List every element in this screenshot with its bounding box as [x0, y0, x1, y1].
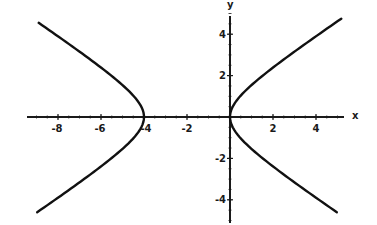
x-tick-label: 2: [270, 123, 277, 134]
x-tick-label: -2: [181, 123, 192, 134]
y-axis-label: y: [227, 0, 234, 10]
x-tick-label: -8: [51, 123, 62, 134]
y-tick-label: -2: [215, 153, 226, 164]
x-axis-label: x: [352, 110, 359, 121]
hyperbola-plot: -8 -6 -4 -2 2 4 4 2 -2 -4 x y: [0, 0, 377, 225]
y-tick-label: 2: [219, 70, 226, 81]
x-tick-label: -6: [94, 123, 105, 134]
y-tick-label: -4: [215, 194, 226, 205]
x-tick-label: 4: [313, 123, 320, 134]
hyperbola-right-branch: [230, 19, 341, 213]
y-tick-label: 4: [219, 29, 226, 40]
